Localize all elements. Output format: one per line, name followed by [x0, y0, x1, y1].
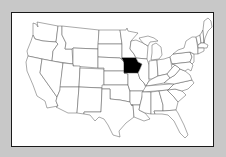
state-new-york[interactable] [173, 37, 198, 54]
state-wyoming[interactable] [73, 48, 98, 68]
map-frame: United States map [11, 12, 214, 147]
state-florida[interactable] [154, 110, 188, 138]
state-connecticut[interactable] [198, 48, 204, 54]
state-washington[interactable] [33, 22, 58, 42]
state-arizona[interactable] [56, 87, 79, 113]
states [26, 18, 212, 138]
us-map [12, 13, 213, 146]
state-north-dakota[interactable] [98, 30, 122, 44]
state-montana[interactable] [62, 26, 99, 49]
state-new-mexico[interactable] [77, 87, 102, 114]
state-indiana[interactable] [149, 60, 158, 79]
state-south-dakota[interactable] [98, 44, 122, 59]
state-maine[interactable] [203, 18, 212, 43]
state-colorado[interactable] [79, 68, 104, 88]
state-massachusetts[interactable] [198, 43, 208, 48]
state-utah[interactable] [60, 63, 80, 87]
